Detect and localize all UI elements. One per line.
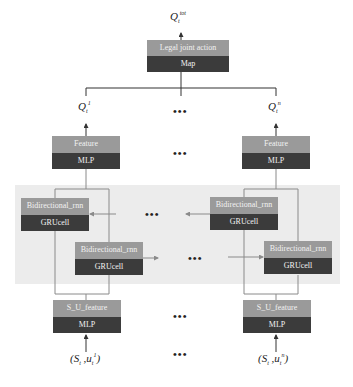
mlp-label: MLP [52,153,120,170]
input-label-agent-1: (St ,ut1) [70,352,100,366]
ellipsis-q: ••• [173,108,188,114]
q-tot-label: Qttot [170,10,186,24]
bidirectional-rnn-label: Bidirectional_rnn [21,198,89,215]
bidirectional-rnn-label: Bidirectional_rnn [75,242,143,259]
ellipsis-rnn-backward: ••• [188,255,203,261]
mlp-label: MLP [53,317,121,334]
ellipsis-rnn-forward: ••• [145,211,160,217]
q-agent-n-label: Qtn [268,100,281,114]
q-agent-1-label: Qt1 [78,100,91,114]
bidirectional-rnn-block-agent-n-backward: Bidirectional_rnn GRUcell [264,241,332,274]
su-feature-mlp-block-agent-1: S_U_feature MLP [53,300,121,333]
bidirectional-rnn-block-agent-1-forward: Bidirectional_rnn GRUcell [21,198,89,231]
mlp-label: MLP [243,317,311,334]
grucell-label: GRUcell [210,214,278,231]
ellipsis-feature: ••• [173,150,188,156]
ellipsis-input-feature: ••• [173,313,188,319]
feature-mlp-block-agent-1: Feature MLP [52,136,120,169]
grucell-label: GRUcell [21,215,89,232]
feature-label: Feature [242,136,310,153]
feature-label: Feature [52,136,120,153]
su-feature-mlp-block-agent-n: S_U_feature MLP [243,300,311,333]
map-label: Map [147,56,229,72]
bidirectional-rnn-block-agent-n-forward: Bidirectional_rnn GRUcell [210,197,278,230]
grucell-label: GRUcell [264,258,332,275]
feature-mlp-block-agent-n: Feature MLP [242,136,310,169]
su-feature-label: S_U_feature [243,300,311,317]
legal-joint-action-label: Legal joint action [147,40,229,56]
bidirectional-rnn-block-agent-1-backward: Bidirectional_rnn GRUcell [75,242,143,275]
legal-joint-action-map-block: Legal joint action Map [147,40,229,72]
ellipsis-input: ••• [173,351,188,357]
mlp-label: MLP [242,153,310,170]
bidirectional-rnn-label: Bidirectional_rnn [264,241,332,258]
input-label-agent-n: (St ,utn) [258,352,288,366]
grucell-label: GRUcell [75,259,143,276]
su-feature-label: S_U_feature [53,300,121,317]
bidirectional-rnn-label: Bidirectional_rnn [210,197,278,214]
